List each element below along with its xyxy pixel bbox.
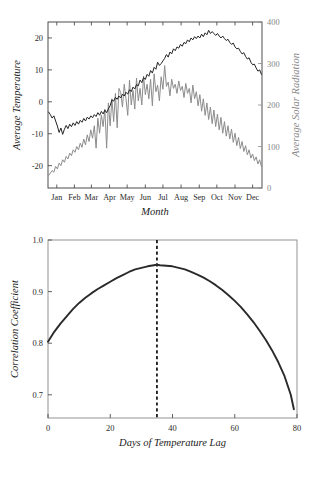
y2-axis-tick-label: 300 [267,60,280,69]
y-axis-tick-label: 10 [35,66,43,75]
x-axis-month-label: Feb [68,193,80,202]
x-axis-month-label: Aug [174,193,188,202]
y-axis-tick-label: 20 [35,34,43,43]
x-axis-month-label: Jul [158,193,168,202]
y2-axis-tick-label: 400 [267,18,280,27]
x-axis-tick-label: 80 [293,424,301,433]
y2-axis-title: Average Solar Radiation [290,53,301,158]
x-axis-title: Days of Temperature Lag [118,437,226,448]
y-axis-tick-label: -20 [32,162,43,171]
x-axis-tick-label: 20 [106,424,114,433]
x-axis-month-label: Dec [246,193,260,202]
x-axis-month-label: May [120,193,136,202]
y-axis-tick-label: 0.7 [33,391,43,400]
x-axis-month-label: Apr [103,193,116,202]
y-axis-title: Average Temperature [11,60,22,151]
x-axis-month-label: Jun [140,193,151,202]
correlation-series [48,265,294,409]
climate-timeseries-panel: -20-10010200100200300400JanFebMarAprMayJ… [0,0,318,232]
x-axis-month-label: Nov [228,193,243,202]
x-axis-tick-label: 40 [168,424,176,433]
climate-lag-figure: -20-10010200100200300400JanFebMarAprMayJ… [0,0,318,479]
plot-frame [48,22,262,188]
y-axis-tick-label: 0 [39,98,43,107]
climate-timeseries-chart: -20-10010200100200300400JanFebMarAprMayJ… [0,0,318,232]
x-axis-month-label: Sep [193,193,205,202]
x-axis-month-label: Mar [85,193,99,202]
y2-axis-tick-label: 200 [267,101,280,110]
lag-correlation-panel: 0.70.80.91.0020406080Correlation Coeffic… [0,228,318,479]
x-axis-tick-label: 60 [231,424,239,433]
y-axis-tick-label: 0.8 [33,339,43,348]
y2-axis-tick-label: 100 [267,143,280,152]
x-axis-tick-label: 0 [46,424,50,433]
lag-correlation-chart: 0.70.80.91.0020406080Correlation Coeffic… [0,228,318,479]
x-axis-title: Month [140,206,168,217]
y-axis-tick-label: 1.0 [33,236,43,245]
x-axis-month-label: Jan [51,193,62,202]
y2-axis-tick-label: 0 [267,184,271,193]
y-axis-tick-label: -10 [32,130,43,139]
y-axis-title: Correlation Coefficient [9,279,20,378]
x-axis-month-label: Oct [211,193,224,202]
y-axis-tick-label: 0.9 [33,288,43,297]
